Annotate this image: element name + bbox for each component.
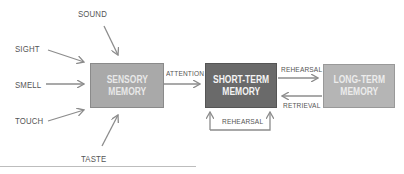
sensory-memory-box: SENSORY MEMORY	[90, 63, 164, 108]
short-term-memory-box: SHORT-TERM MEMORY	[205, 63, 277, 108]
input-smell-label: SMELL	[15, 79, 41, 90]
touch-arrow	[48, 110, 84, 121]
long-term-memory-box: LONG-TERM MEMORY	[323, 64, 395, 108]
short-term-memory-line1: SHORT-TERM	[213, 74, 269, 86]
sight-arrow	[48, 50, 84, 62]
rehearsal-loop-label: REHEARSAL	[222, 117, 263, 126]
input-taste-label: TASTE	[81, 153, 106, 164]
long-term-memory-line2: MEMORY	[340, 86, 378, 98]
sound-arrow	[104, 26, 118, 55]
retrieval-label: RETRIEVAL	[283, 101, 320, 110]
input-touch-label: TOUCH	[15, 115, 43, 126]
attention-label: ATTENTION	[166, 69, 204, 78]
short-term-memory-line2: MEMORY	[222, 86, 260, 98]
sensory-memory-line1: SENSORY	[106, 74, 147, 86]
taste-arrow	[102, 115, 118, 146]
input-sound-label: SOUND	[78, 8, 107, 19]
sensory-memory-line2: MEMORY	[108, 86, 146, 98]
divider-line	[0, 166, 196, 167]
rehearsal-forward-label: REHEARSAL	[281, 65, 322, 74]
input-sight-label: SIGHT	[15, 43, 40, 54]
long-term-memory-line1: LONG-TERM	[333, 74, 384, 86]
